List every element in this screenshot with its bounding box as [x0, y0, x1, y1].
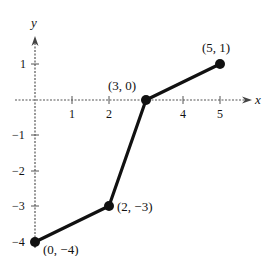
chart: x y 1 2 4 5 1 −1 −2 −3 −4 (0, −4) (2, −3… — [0, 0, 264, 256]
point-3-0 — [141, 95, 151, 105]
point-label-2-neg3: (2, −3) — [117, 199, 153, 214]
x-axis-label: x — [254, 92, 261, 107]
x-tick-label-1: 1 — [69, 107, 75, 121]
y-axis-label: y — [29, 15, 37, 30]
y-tick-label-neg2: −2 — [12, 164, 25, 178]
y-tick-label-neg4: −4 — [12, 235, 25, 249]
x-tick-label-5: 5 — [217, 107, 223, 121]
point-2-neg3 — [104, 201, 114, 211]
point-5-1 — [215, 59, 225, 69]
y-tick-label-neg3: −3 — [12, 199, 25, 213]
y-tick-label-neg1: −1 — [12, 128, 25, 142]
x-tick-label-4: 4 — [180, 107, 186, 121]
point-label-3-0: (3, 0) — [108, 78, 136, 93]
x-tick-label-2: 2 — [106, 107, 112, 121]
y-tick-label-1: 1 — [20, 57, 26, 71]
point-label-5-1: (5, 1) — [202, 40, 230, 55]
point-label-0-neg4: (0, −4) — [43, 242, 79, 256]
point-0-neg4 — [30, 237, 40, 247]
